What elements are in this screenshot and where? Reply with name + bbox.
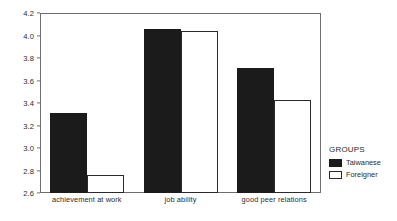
y-axis-tick-label: 4.2 (23, 9, 34, 18)
y-axis-tick-label: 3.8 (23, 54, 34, 63)
x-axis-tick-label: job ability (165, 195, 197, 204)
y-axis-tick-label: 2.6 (23, 189, 34, 198)
x-axis-tick-label: good peer relations (242, 195, 307, 204)
y-axis-tick-label: 3.0 (23, 144, 34, 153)
y-axis: 2.62.83.03.23.43.63.84.04.2 (0, 13, 40, 193)
bar-foreigner[interactable] (181, 31, 218, 193)
outline-white-swatch (329, 171, 342, 179)
legend: GROUPS TaiwaneseForeigner (329, 145, 397, 182)
bar-foreigner[interactable] (274, 100, 311, 193)
x-axis: achievement at workjob abilitygood peer … (40, 195, 321, 211)
filled-black-swatch (329, 159, 342, 167)
bar-taiwanese[interactable] (144, 29, 181, 193)
y-axis-tick-label: 3.4 (23, 99, 34, 108)
bar-group (50, 13, 124, 193)
bar-taiwanese[interactable] (50, 113, 87, 193)
y-axis-tick-label: 4.0 (23, 31, 34, 40)
bar-group (237, 13, 311, 193)
legend-item-label: Foreigner (346, 170, 378, 179)
bar-foreigner[interactable] (87, 175, 124, 193)
y-axis-tick-label: 3.6 (23, 76, 34, 85)
bar-chart: 2.62.83.03.23.43.63.84.04.2 achievement … (0, 0, 397, 221)
legend-entries: TaiwaneseForeigner (329, 158, 397, 179)
x-axis-tick-label: achievement at work (52, 195, 122, 204)
bar-group (144, 13, 218, 193)
legend-item-foreigner[interactable]: Foreigner (329, 170, 397, 179)
y-axis-tick-label: 2.8 (23, 166, 34, 175)
legend-title: GROUPS (329, 145, 397, 154)
bars-layer (40, 13, 321, 193)
legend-item-taiwanese[interactable]: Taiwanese (329, 158, 397, 167)
y-axis-tick-label: 3.2 (23, 121, 34, 130)
bar-taiwanese[interactable] (237, 68, 274, 193)
legend-item-label: Taiwanese (346, 158, 381, 167)
